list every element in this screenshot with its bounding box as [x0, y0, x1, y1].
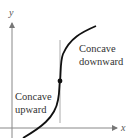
concavity-diagram: y x Concave downward Concave upward	[0, 0, 128, 138]
y-axis-label: y	[8, 7, 14, 18]
inflection-point-dot	[58, 79, 63, 84]
concave-downward-label-line2: downward	[79, 56, 124, 67]
concave-downward-label-line1: Concave	[79, 43, 116, 54]
x-axis-label: x	[120, 122, 126, 133]
concave-upward-label-line1: Concave	[15, 91, 52, 102]
concave-upward-label-line2: upward	[15, 104, 47, 115]
